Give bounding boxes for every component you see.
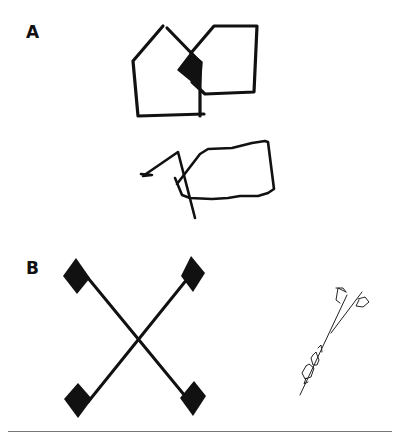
pentagon-copy-drawing [141, 141, 274, 218]
bottom-rule [8, 431, 392, 432]
diamond-cross-copy-drawing [300, 288, 369, 395]
interlocking-pentagons-model [133, 26, 257, 116]
figure-canvas [0, 0, 396, 438]
diamond-cross-model [63, 256, 206, 418]
